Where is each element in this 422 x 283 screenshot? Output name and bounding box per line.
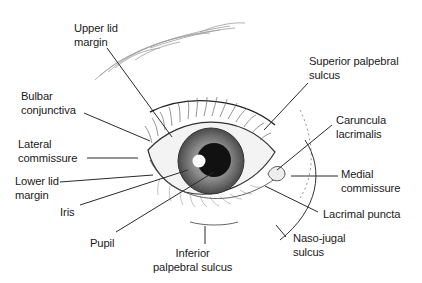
eye-anatomy-diagram: Upper lid margin Superior palpebral sulc… [0, 0, 422, 283]
nasal-contour [300, 110, 311, 198]
corneal-highlight [193, 155, 206, 168]
label-pupil: Pupil [90, 237, 114, 251]
label-medial-commissure: Medial commissure [341, 168, 400, 195]
label-caruncula-lacrimalis: Caruncula lacrimalis [336, 114, 386, 141]
label-superior-palpebral-sulcus: Superior palpebral sulcus [309, 55, 399, 82]
caruncle [268, 167, 285, 181]
naso-jugal-curve [280, 140, 316, 240]
label-inferior-palpebral-sulcus: Inferior palpebral sulcus [153, 247, 232, 274]
label-lateral-commissure: Lateral commissure [18, 138, 77, 165]
label-bulbar-conjunctiva: Bulbar conjunctiva [21, 90, 76, 117]
label-iris: Iris [60, 206, 75, 220]
label-lacrimal-puncta: Lacrimal puncta [323, 208, 400, 222]
label-naso-jugal-sulcus: Naso-jugal sulcus [293, 232, 345, 259]
inferior-palpebral-crease [190, 222, 238, 225]
label-upper-lid-margin: Upper lid margin [74, 22, 118, 49]
label-lower-lid-margin: Lower lid margin [15, 175, 59, 202]
